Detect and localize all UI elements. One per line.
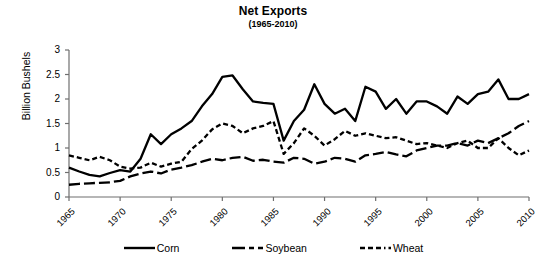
legend-swatch-soybean [231,243,264,253]
legend-item-soybean: Soybean [231,242,306,254]
y-tick-label: 0 [34,192,60,202]
series-line-corn [69,75,529,176]
legend-swatch-corn [123,243,156,253]
legend-label-wheat: Wheat [393,242,423,254]
legend-label-soybean: Soybean [265,242,306,254]
y-tick-label: 0.5 [34,168,60,178]
series-line-soybean [69,121,529,185]
y-tick-label: 2.5 [34,70,60,80]
y-tick-label: 1 [34,143,60,153]
chart-legend: Corn Soybean Wheat [0,238,546,258]
chart-figure: Net Exports (1965-2010) Billion Bushels … [0,0,546,262]
legend-label-corn: Corn [157,242,180,254]
y-tick-label: 1.5 [34,119,60,129]
legend-swatch-wheat [359,243,392,253]
legend-item-wheat: Wheat [359,242,423,254]
axis-lines [65,50,529,201]
y-axis-label: Billion Bushels [20,16,32,156]
y-tick-label: 2 [34,94,60,104]
series-lines [69,75,529,184]
legend-item-corn: Corn [123,242,180,254]
y-tick-label: 3 [34,45,60,55]
